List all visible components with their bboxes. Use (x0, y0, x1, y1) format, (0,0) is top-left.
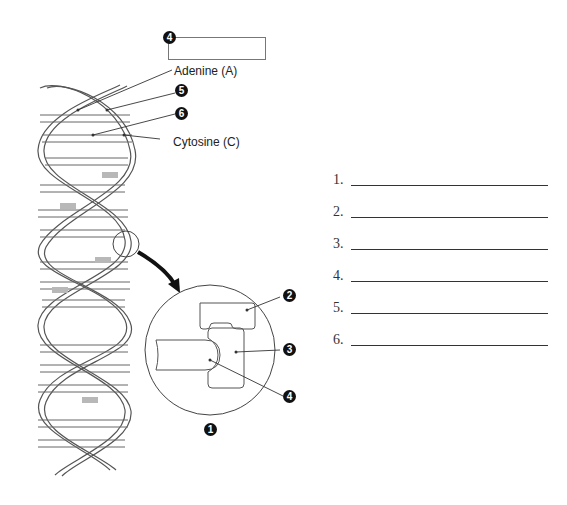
answer-number: 2. (333, 204, 344, 220)
answer-line[interactable] (351, 345, 548, 346)
answer-row-4[interactable]: 4. (333, 268, 548, 284)
answer-number: 3. (333, 236, 344, 252)
badge-1: 1 (204, 423, 217, 436)
answer-row-5[interactable]: 5. (333, 300, 548, 316)
answer-number: 1. (333, 172, 344, 188)
badge-3: 3 (283, 343, 296, 356)
answer-line[interactable] (351, 185, 548, 186)
answer-number: 5. (333, 300, 344, 316)
answer-row-3[interactable]: 3. (333, 236, 548, 252)
label-cytosine: Cytosine (C) (173, 135, 240, 149)
badge-4-zoom: 4 (283, 390, 296, 403)
dna-helix-figure (0, 0, 567, 505)
badge-4-top: 4 (163, 31, 176, 44)
answer-box-4[interactable] (168, 37, 266, 60)
answer-number: 6. (333, 332, 344, 348)
answer-row-6[interactable]: 6. (333, 332, 548, 348)
badge-5: 5 (175, 84, 188, 97)
answer-number: 4. (333, 268, 344, 284)
answer-line[interactable] (351, 217, 548, 218)
label-adenine: Adenine (A) (174, 64, 237, 78)
answer-line[interactable] (351, 249, 548, 250)
badge-6: 6 (175, 107, 188, 120)
answer-row-2[interactable]: 2. (333, 204, 548, 220)
badge-2: 2 (283, 289, 296, 302)
answer-line[interactable] (351, 313, 548, 314)
answer-line[interactable] (351, 281, 548, 282)
answer-row-1[interactable]: 1. (333, 172, 548, 188)
